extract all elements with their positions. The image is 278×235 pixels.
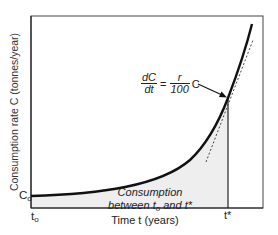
area-label-prefix: between t [108, 199, 156, 211]
eq-lhs-den: dt [141, 84, 157, 95]
derivative-fraction: dC dt [141, 72, 157, 95]
eq-rhs-den: 100 [170, 84, 190, 95]
area-label-line1: Consumption [108, 186, 192, 199]
y-axis-label: Consumption rate C (tonnes/year) [8, 33, 20, 191]
area-label-line2: between to and t* [108, 199, 192, 215]
growth-equation: dC dt = r 100 C [141, 72, 200, 95]
eq-equals: = [160, 78, 166, 90]
arrow-head-icon [219, 92, 227, 98]
equation-arrow [198, 84, 222, 95]
t0-sub: o [34, 215, 38, 224]
y-tick-c0: Co [19, 190, 32, 203]
c0-sub: o [27, 194, 31, 203]
eq-rhs-var: C [192, 78, 200, 90]
x-tick-t-star: t* [224, 210, 231, 221]
x-axis-label: Time t (years) [111, 214, 178, 226]
x-tick-t0: to [31, 211, 39, 224]
area-label-suffix: and t* [160, 199, 192, 211]
area-label: Consumption between to and t* [108, 186, 192, 215]
rate-fraction: r 100 [170, 72, 190, 95]
